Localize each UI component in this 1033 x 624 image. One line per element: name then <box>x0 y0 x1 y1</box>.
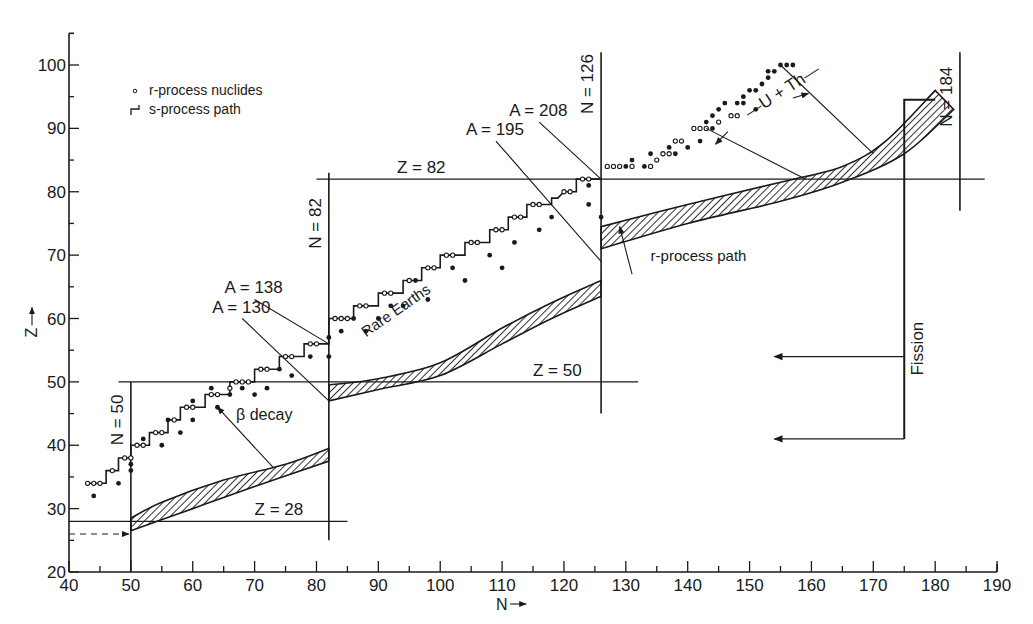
nuclide-open <box>475 240 479 244</box>
nuclide-filled <box>512 240 517 245</box>
nuclide-filled <box>747 88 752 93</box>
nuclide-open <box>692 126 696 130</box>
nuclide-filled <box>240 386 245 391</box>
nuclide-filled <box>673 151 678 156</box>
magic-label-n50: N = 50 <box>108 395 127 446</box>
chart-svg: N = 50N = 82N = 126N = 184Z = 28Z = 50Z … <box>0 0 1033 624</box>
x-tick-label: 90 <box>369 576 388 595</box>
magic-label-z28: Z = 28 <box>255 500 304 519</box>
nuclide-open <box>283 354 287 358</box>
nuclide-filled <box>128 468 133 473</box>
x-tick-label: 60 <box>183 576 202 595</box>
nuclide-open <box>240 380 244 384</box>
isobar-line <box>496 141 601 261</box>
nuclide-open <box>154 430 158 434</box>
nuclide-open <box>661 152 665 156</box>
nuclide-filled <box>698 139 703 144</box>
x-tick-label: 170 <box>859 576 887 595</box>
nuclide-filled <box>166 418 171 423</box>
nuclide-filled <box>586 183 591 188</box>
x-tick-label: 70 <box>245 576 264 595</box>
nuclide-open <box>568 190 572 194</box>
nuclide-open <box>735 114 739 118</box>
nuclide-open <box>389 291 393 295</box>
nuclide-filled <box>277 367 282 372</box>
nuclide-filled <box>450 265 455 270</box>
nuclide-open <box>580 177 584 181</box>
nuclide-filled <box>722 101 727 106</box>
y-tick-label: 70 <box>47 246 66 265</box>
nuclide-filled <box>190 398 195 403</box>
nuclide-open <box>537 202 541 206</box>
nuclide-filled <box>227 392 232 397</box>
y-tick-label: 50 <box>47 373 66 392</box>
nuclide-open <box>259 367 263 371</box>
annotation-fission: Fission <box>908 322 927 376</box>
y-tick-label: 100 <box>38 56 66 75</box>
isobar-label: A = 208 <box>509 101 567 120</box>
nuclide-open <box>531 202 535 206</box>
nuclide-open <box>500 228 504 232</box>
nuclide-open <box>364 304 368 308</box>
nuclide-open <box>655 158 659 162</box>
nuclide-filled <box>586 202 591 207</box>
nuclide-open <box>123 456 127 460</box>
nuclide-open <box>160 430 164 434</box>
nuclide-filled <box>667 145 672 150</box>
nuclide-open <box>432 266 436 270</box>
legend-dot-icon <box>133 89 137 93</box>
magic-label-n126: N = 126 <box>578 54 597 114</box>
nuclide-open <box>358 304 362 308</box>
nuclide-open <box>673 139 677 143</box>
legend: r-process nuclidess-process path <box>131 82 263 117</box>
nuclide-open <box>679 139 683 143</box>
nuclide-filled <box>178 430 183 435</box>
nuclide-filled <box>685 145 690 150</box>
nuclide-open <box>630 164 634 168</box>
nuclide-open <box>698 126 702 130</box>
nuclide-open <box>519 215 523 219</box>
x-tick-label: 100 <box>426 576 454 595</box>
isobar-line <box>539 122 601 179</box>
nuclide-filled <box>704 120 709 125</box>
isobar-line <box>255 299 329 343</box>
x-tick-label: 180 <box>921 576 949 595</box>
nuclide-filled <box>710 126 715 131</box>
nuclide-filled <box>326 335 331 340</box>
nuclide-filled <box>190 418 195 423</box>
nuclide-open <box>265 367 269 371</box>
nuclide-open <box>339 316 343 320</box>
y-tick-label: 60 <box>47 310 66 329</box>
nuclide-filled <box>784 63 789 68</box>
nuclide-filled <box>116 481 121 486</box>
nuclide-open <box>110 469 114 473</box>
isobar-label: A = 138 <box>225 278 283 297</box>
isobar-lines: A = 130A = 138A = 195A = 208 <box>212 101 601 401</box>
nuclide-open <box>92 481 96 485</box>
nuclide-open <box>308 342 312 346</box>
nuclide-filled <box>790 63 795 68</box>
magic-label-z50: Z = 50 <box>533 361 582 380</box>
nuclide-filled <box>487 253 492 258</box>
nuclide-filled <box>537 227 542 232</box>
u-th-bracket-left <box>706 128 805 179</box>
magic-label-n82: N = 82 <box>306 198 325 249</box>
nuclide-filled <box>735 101 740 106</box>
legend-label-s-process: s-process path <box>149 101 241 117</box>
nuclide-open <box>135 443 139 447</box>
r-process-band-126-184 <box>601 90 954 248</box>
nuclide-filled <box>599 215 604 220</box>
y-tick-label: 20 <box>47 563 66 582</box>
nuclide-open <box>191 405 195 409</box>
nuclide-filled <box>741 94 746 99</box>
nuclide-open <box>426 266 430 270</box>
nuclide-filled <box>630 158 635 163</box>
nuclide-open <box>314 342 318 346</box>
nuclide-open <box>717 120 721 124</box>
nuclide-filled <box>252 392 257 397</box>
magic-label-n184: N = 184 <box>937 67 956 127</box>
nuclide-filled <box>308 354 313 359</box>
y-axis-label: Z <box>23 328 40 338</box>
nuclide-filled <box>413 278 418 283</box>
annotation-rare-earths: Rare Earths <box>358 280 433 340</box>
